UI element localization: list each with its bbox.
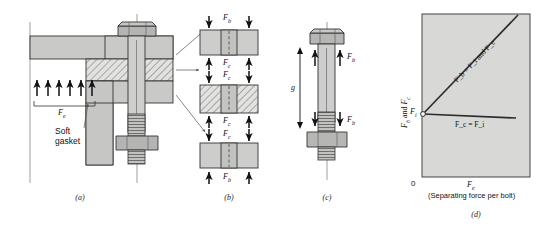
subcaption-a: (a) — [60, 193, 100, 202]
bolt-force-top-label: Fb — [347, 52, 355, 63]
part-b-member-fbds — [200, 16, 258, 184]
chart-origin-label: 0 — [411, 179, 415, 188]
fbd-gasket-bottom-force-label: Fc — [223, 116, 231, 127]
part-a-external-force-label: Fe — [58, 108, 66, 119]
part-a-assembly — [30, 14, 205, 183]
part-c-bolt-fbd — [297, 22, 347, 180]
subcaption-d: (d) — [456, 210, 496, 219]
chart-x-axis-label: Fe — [467, 180, 475, 191]
subcaption-b: (b) — [209, 193, 249, 202]
fbd-upper-bottom-force-label: Fc — [223, 58, 231, 69]
bolt-force-bottom-label: Fb — [347, 115, 355, 126]
fbd-lower-bottom-force-label: Fb — [223, 172, 231, 183]
grip-dimension — [297, 47, 303, 129]
soft-gasket-label: Soft gasket — [55, 126, 80, 146]
grip-length-label: g — [291, 83, 295, 92]
external-force-arrows — [37, 80, 92, 96]
chart-x-axis-note: (Separating force per bolt) — [428, 191, 515, 200]
figure-bolted-joint-gasket: Fe Soft gasket Fb Fc Fc Fc Fc Fb g Fb Fb… — [0, 0, 547, 227]
fbd-lower-top-force-label: Fc — [223, 129, 231, 140]
part-d-force-diagram — [421, 14, 530, 177]
subcaption-c: (c) — [307, 193, 347, 202]
fbd-gasket-top-force-label: Fc — [223, 70, 231, 81]
chart-intercept-label: Fi — [410, 107, 417, 118]
chart-y-axis-label: Fb and Fc — [400, 97, 411, 128]
fbd-upper-top-force-label: Fb — [223, 13, 231, 24]
chart-series-flat-label: F_c = F_i — [455, 120, 484, 129]
